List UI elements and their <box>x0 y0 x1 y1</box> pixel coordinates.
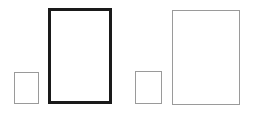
figure-canvas <box>0 0 254 117</box>
small-rectangle-left[interactable] <box>14 72 39 104</box>
large-rectangle-thin[interactable] <box>172 10 240 105</box>
small-rectangle-right[interactable] <box>135 71 162 104</box>
large-rectangle-bold[interactable] <box>48 8 112 104</box>
